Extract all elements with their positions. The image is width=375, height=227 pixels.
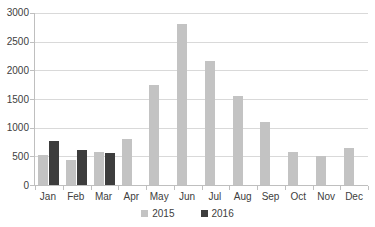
- y-axis-ticks: [30, 13, 34, 185]
- x-tick: [174, 186, 175, 190]
- bar-group-sep: [257, 13, 285, 185]
- bar-chart: 050010001500200025003000 JanFebMarAprMay…: [0, 0, 375, 227]
- y-tick: [30, 185, 34, 186]
- bar-group-jun: [174, 13, 202, 185]
- bar-2015-mar: [94, 152, 104, 185]
- bar-group-oct: [285, 13, 313, 185]
- bar-group-feb: [63, 13, 91, 185]
- x-tick: [118, 186, 119, 190]
- bar-2015-nov: [316, 156, 326, 185]
- bar-group-jul: [202, 13, 230, 185]
- bar-2015-dec: [344, 148, 354, 185]
- x-tick: [285, 186, 286, 190]
- x-axis-label: May: [145, 191, 173, 202]
- x-axis-label: Sep: [257, 191, 285, 202]
- bars: [35, 13, 368, 185]
- legend-label-2015: 2015: [152, 208, 174, 219]
- x-axis-label: Dec: [340, 191, 368, 202]
- x-tick: [340, 186, 341, 190]
- bar-2016-mar: [105, 153, 115, 185]
- x-tick: [368, 186, 369, 190]
- y-axis-label: 1500: [7, 95, 29, 105]
- bar-2015-jun: [177, 24, 187, 185]
- bar-group-may: [146, 13, 174, 185]
- legend-swatch-2015: [141, 210, 148, 217]
- x-axis-ticks: [35, 186, 368, 190]
- bar-2015-jan: [38, 155, 48, 185]
- x-tick: [146, 186, 147, 190]
- bar-group-nov: [313, 13, 341, 185]
- y-axis-label: 2000: [7, 66, 29, 76]
- x-tick: [202, 186, 203, 190]
- bar-2015-jul: [205, 61, 215, 185]
- x-axis-label: Apr: [117, 191, 145, 202]
- bar-group-mar: [91, 13, 119, 185]
- x-axis-label: Nov: [312, 191, 340, 202]
- x-axis-label: Mar: [90, 191, 118, 202]
- y-axis-label: 0: [23, 181, 29, 191]
- x-axis-labels: JanFebMarAprMayJunJulAugSepOctNovDec: [34, 191, 368, 202]
- y-axis-label: 3000: [7, 8, 29, 18]
- y-tick: [30, 99, 34, 100]
- bar-group-apr: [118, 13, 146, 185]
- legend-swatch-2016: [201, 210, 208, 217]
- bar-2015-oct: [288, 152, 298, 185]
- legend-label-2016: 2016: [212, 208, 234, 219]
- bar-2015-feb: [66, 160, 76, 185]
- legend-item-2015: 2015: [141, 208, 174, 219]
- bar-2015-sep: [260, 122, 270, 185]
- bar-2015-aug: [233, 96, 243, 185]
- x-axis-label: Feb: [62, 191, 90, 202]
- x-tick: [257, 186, 258, 190]
- bar-group-jan: [35, 13, 63, 185]
- x-axis-label: Jul: [201, 191, 229, 202]
- x-axis-label: Aug: [229, 191, 257, 202]
- bar-group-aug: [229, 13, 257, 185]
- y-tick: [30, 42, 34, 43]
- legend: 20152016: [0, 206, 375, 220]
- y-tick: [30, 128, 34, 129]
- plot-area: [34, 13, 368, 186]
- bar-group-dec: [340, 13, 368, 185]
- x-tick: [35, 186, 36, 190]
- bar-2015-may: [149, 85, 159, 185]
- y-axis: 050010001500200025003000: [0, 13, 29, 186]
- y-axis-label: 2500: [7, 37, 29, 47]
- x-tick: [91, 186, 92, 190]
- x-tick: [229, 186, 230, 190]
- legend-item-2016: 2016: [201, 208, 234, 219]
- x-tick: [313, 186, 314, 190]
- x-axis-label: Jan: [34, 191, 62, 202]
- y-tick: [30, 156, 34, 157]
- y-tick: [30, 13, 34, 14]
- x-axis-label: Oct: [284, 191, 312, 202]
- y-tick: [30, 70, 34, 71]
- x-axis-label: Jun: [173, 191, 201, 202]
- bar-2016-feb: [77, 150, 87, 185]
- bar-2016-jan: [49, 141, 59, 185]
- x-tick: [63, 186, 64, 190]
- bar-2015-apr: [122, 139, 132, 185]
- y-axis-label: 1000: [7, 123, 29, 133]
- y-axis-label: 500: [12, 152, 29, 162]
